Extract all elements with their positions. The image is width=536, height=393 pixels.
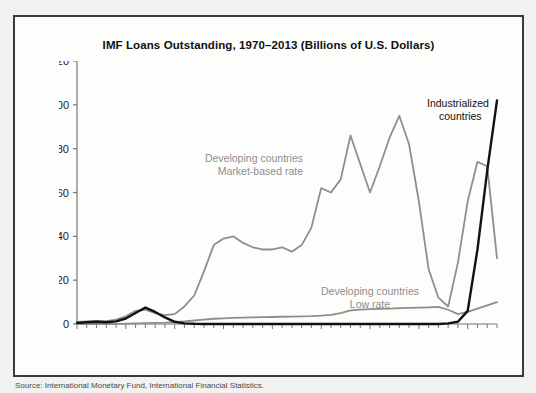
y-tick-label: 120 xyxy=(59,61,69,67)
y-ticks-group: 020406080100120 xyxy=(59,61,77,329)
y-tick-label: 20 xyxy=(59,274,69,286)
chart-title: IMF Loans Outstanding, 1970–2013 (Billio… xyxy=(15,39,522,51)
plot-area: 020406080100120 197019751980198519901995… xyxy=(59,61,499,329)
y-tick-label: 100 xyxy=(59,99,69,111)
y-tick-label: 40 xyxy=(59,230,69,242)
y-tick-label: 0 xyxy=(63,318,69,329)
y-tick-label: 80 xyxy=(59,143,69,155)
series-line xyxy=(77,100,497,324)
series-group xyxy=(77,100,497,324)
series-line xyxy=(77,302,497,324)
chart-svg: 020406080100120 197019751980198519901995… xyxy=(59,61,499,329)
figure-frame: IMF Loans Outstanding, 1970–2013 (Billio… xyxy=(13,15,524,377)
source-caption: Source: International Monetary Fund, Int… xyxy=(15,381,264,390)
y-tick-label: 60 xyxy=(59,187,69,199)
series-line xyxy=(77,116,497,322)
